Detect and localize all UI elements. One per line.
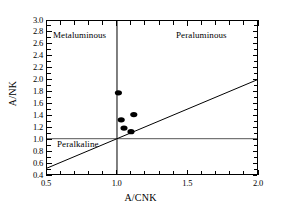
x-axis-tick	[159, 171, 160, 176]
annotation-metaluminous: Metaluminous	[53, 30, 106, 40]
y-axis-tick	[46, 20, 52, 21]
y-axis-tick-right	[253, 67, 258, 68]
data-point	[127, 129, 134, 134]
y-axis-tick	[46, 97, 51, 98]
annotation-peralkaline: Peralkaline	[57, 139, 99, 149]
y-axis-tick-label: 0.6	[33, 159, 43, 168]
y-axis-tick-right	[253, 31, 258, 32]
y-axis-tick	[46, 85, 51, 86]
x-axis-tick-top	[46, 20, 47, 26]
x-axis-tick	[173, 171, 174, 176]
x-axis-tick	[60, 171, 61, 176]
y-axis-tick-label: 2.2	[33, 63, 43, 72]
y-axis-tick-label: 1.0	[33, 135, 43, 144]
data-point	[118, 117, 125, 122]
x-axis-tick	[215, 171, 216, 176]
y-axis-tick-right	[253, 20, 258, 21]
x-axis-tick-top	[60, 20, 61, 25]
y-axis-tick	[46, 55, 52, 56]
x-axis-tick	[46, 170, 47, 176]
y-axis-tick	[46, 61, 51, 62]
y-axis-tick-label: 3.0	[33, 16, 43, 25]
data-point	[120, 125, 127, 130]
y-axis-tick-label: 2.4	[33, 51, 43, 60]
x-axis-tick-top	[173, 20, 174, 25]
y-axis-tick-right	[254, 109, 259, 110]
chart-figure: 3.02.82.62.42.22.01.81.61.41.21.00.80.60…	[0, 0, 281, 211]
x-axis-tick-top	[144, 20, 145, 25]
x-axis-tick-label: 1.0	[112, 179, 122, 188]
x-axis-tick	[258, 170, 259, 176]
y-axis-tick-right	[254, 25, 259, 26]
y-axis-tick	[46, 103, 52, 104]
y-axis-tick	[46, 169, 51, 170]
y-axis-tick-right	[253, 43, 258, 44]
y-axis-tick-right	[254, 61, 259, 62]
y-axis-tick	[46, 25, 51, 26]
x-axis-tick	[74, 171, 75, 176]
y-axis-tick-label: 1.6	[33, 99, 43, 108]
x-axis-tick-top	[74, 20, 75, 25]
y-axis-tick	[46, 31, 52, 32]
y-axis-tick	[46, 91, 52, 92]
x-axis-title: A/CNK	[0, 192, 281, 203]
reference-line-identity-diagonal	[47, 80, 257, 168]
plot-area	[46, 20, 258, 175]
plot-canvas	[47, 21, 257, 174]
x-axis-tick-label: 0.5	[41, 179, 51, 188]
x-axis-tick-top	[229, 20, 230, 25]
x-axis-tick	[116, 170, 117, 176]
x-axis-tick-label: 2.0	[253, 179, 263, 188]
y-axis-tick	[46, 49, 51, 50]
y-axis-tick	[46, 115, 52, 116]
x-axis-tick-top	[243, 20, 244, 25]
y-axis-tick	[46, 121, 51, 122]
y-axis-tick-right	[253, 151, 258, 152]
y-axis-tick-right	[254, 121, 259, 122]
y-axis-tick	[46, 175, 52, 176]
y-axis-tick-right	[254, 85, 259, 86]
y-axis-tick-right	[253, 79, 258, 80]
y-axis-tick	[46, 133, 51, 134]
x-axis-tick-top	[116, 20, 117, 26]
data-point	[130, 112, 137, 117]
reference-lines-group	[47, 21, 257, 174]
y-axis-tick-label: 0.8	[33, 147, 43, 156]
x-axis-tick	[144, 171, 145, 176]
y-axis-tick-label: 2.6	[33, 39, 43, 48]
y-axis-tick-right	[254, 97, 259, 98]
y-axis-tick-right	[254, 37, 259, 38]
y-axis-tick	[46, 139, 52, 140]
y-axis-tick-right	[253, 127, 258, 128]
y-axis-tick-label: 2.0	[33, 75, 43, 84]
y-axis-tick-right	[254, 133, 259, 134]
x-axis-tick-top	[187, 20, 188, 26]
y-axis-tick-label: 1.2	[33, 123, 43, 132]
x-axis-tick-top	[102, 20, 103, 25]
y-axis-tick	[46, 127, 52, 128]
x-axis-tick-top	[130, 20, 131, 25]
y-axis-tick-right	[254, 73, 259, 74]
y-axis-tick-label: 1.8	[33, 87, 43, 96]
y-axis-tick-right	[253, 55, 258, 56]
x-axis-tick-top	[258, 20, 259, 26]
y-axis-tick	[46, 73, 51, 74]
x-axis-tick-top	[88, 20, 89, 25]
y-axis-tick	[46, 43, 52, 44]
data-points-group	[115, 90, 138, 134]
y-axis-tick	[46, 157, 51, 158]
y-axis-tick-right	[253, 139, 258, 140]
y-axis-tick	[46, 79, 52, 80]
y-axis-tick-right	[253, 115, 258, 116]
y-axis-tick-right	[253, 163, 258, 164]
y-axis-tick-right	[254, 157, 259, 158]
y-axis-tick	[46, 145, 51, 146]
data-point	[115, 90, 122, 95]
y-axis-tick-right	[253, 103, 258, 104]
x-axis-tick-label: 1.5	[182, 179, 192, 188]
x-axis-tick-top	[215, 20, 216, 25]
y-axis-tick	[46, 37, 51, 38]
x-axis-tick-top	[159, 20, 160, 25]
x-axis-tick	[187, 170, 188, 176]
x-axis-tick	[243, 171, 244, 176]
